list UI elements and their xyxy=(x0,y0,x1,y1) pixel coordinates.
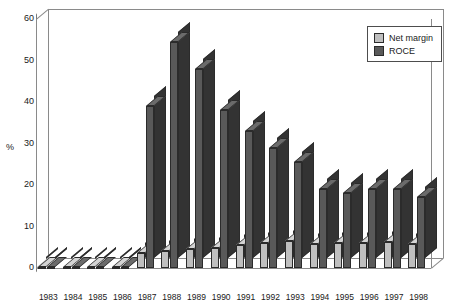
x-axis-tick-label: 1989 xyxy=(183,292,209,302)
bar-roce xyxy=(393,189,401,268)
y-axis-tick-mark xyxy=(36,172,46,189)
bar-roce xyxy=(343,193,351,268)
x-axis-tick-label: 1992 xyxy=(258,292,284,302)
bar-net-margin xyxy=(161,251,169,268)
x-axis-tick-label: 1987 xyxy=(134,292,160,302)
x-axis-tick-label: 1993 xyxy=(282,292,308,302)
bar-roce xyxy=(269,148,277,268)
bar-roce xyxy=(170,42,178,268)
y-axis-tick-label: 10 xyxy=(12,222,34,231)
bar-roce xyxy=(121,267,129,269)
x-axis-tick-label: 1990 xyxy=(208,292,234,302)
legend-item-net-margin: Net margin xyxy=(374,31,433,44)
x-axis-tick-label: 1988 xyxy=(159,292,185,302)
y-axis-tick-mark xyxy=(36,47,46,64)
chart-legend: Net margin ROCE xyxy=(367,26,442,62)
bar-roce xyxy=(96,267,104,269)
bar-side-face xyxy=(228,90,240,258)
legend-swatch-net-margin xyxy=(374,33,384,43)
y-axis-tick-label: 50 xyxy=(12,56,34,65)
x-axis-tick-label: 1997 xyxy=(381,292,407,302)
bar-roce xyxy=(220,110,228,268)
bar-net-margin xyxy=(408,244,416,268)
bar-net-margin xyxy=(285,241,293,268)
bar-roce xyxy=(245,131,253,268)
bar-net-margin xyxy=(359,243,367,268)
x-axis-tick-label: 1998 xyxy=(406,292,432,302)
legend-swatch-roce xyxy=(374,46,384,56)
bar-side-face xyxy=(203,49,215,258)
y-axis-tick-label: 60 xyxy=(12,14,34,23)
plot-top-edge xyxy=(48,9,443,10)
bar-net-margin xyxy=(384,242,392,268)
legend-label-net-margin: Net margin xyxy=(389,33,433,43)
x-axis-tick-label: 1996 xyxy=(356,292,382,302)
bar-roce xyxy=(294,162,302,268)
x-axis-tick-label: 1991 xyxy=(233,292,259,302)
bar-roce xyxy=(72,267,80,269)
bar-roce xyxy=(195,69,203,268)
bar-chart: % 0102030405060 198319841985198619871988… xyxy=(0,0,453,308)
bar-net-margin xyxy=(334,243,342,268)
back-right-vertical xyxy=(443,9,444,258)
bar-side-face xyxy=(253,111,265,258)
legend-label-roce: ROCE xyxy=(389,46,415,56)
bar-net-margin xyxy=(63,267,71,269)
x-axis-tick-label: 1994 xyxy=(307,292,333,302)
bar-net-margin xyxy=(186,249,194,268)
back-left-vertical xyxy=(48,9,49,258)
bar-net-margin xyxy=(211,248,219,268)
y-axis-tick-mark xyxy=(36,130,46,147)
x-axis-tick-label: 1995 xyxy=(332,292,358,302)
legend-item-roce: ROCE xyxy=(374,44,433,57)
bottom-right-depth-edge xyxy=(431,258,444,269)
x-axis-tick-label: 1986 xyxy=(109,292,135,302)
bar-net-margin xyxy=(112,267,120,269)
x-axis-tick-label: 1985 xyxy=(85,292,111,302)
x-axis-tick-label: 1983 xyxy=(35,292,61,302)
y-axis-tick-mark xyxy=(36,213,46,230)
x-axis-tick-label: 1984 xyxy=(60,292,86,302)
bar-roce xyxy=(319,189,327,268)
y-axis-tick-label: 20 xyxy=(12,180,34,189)
y-axis-tick-mark xyxy=(36,89,46,106)
y-axis-tick-label: 30 xyxy=(12,139,34,148)
y-axis-line xyxy=(36,19,37,268)
bar-roce xyxy=(47,267,55,269)
bar-roce xyxy=(146,106,154,268)
bar-side-face xyxy=(154,86,166,258)
y-axis-tick-label: 40 xyxy=(12,97,34,106)
y-axis-tick-label: 0 xyxy=(12,263,34,272)
bar-roce xyxy=(368,189,376,268)
bar-side-face xyxy=(178,22,190,258)
bar-net-margin xyxy=(260,243,268,268)
bar-net-margin xyxy=(236,245,244,268)
bar-net-margin xyxy=(137,253,145,268)
bar-roce xyxy=(417,197,425,268)
bar-net-margin xyxy=(310,244,318,268)
bar-net-margin xyxy=(38,267,46,269)
